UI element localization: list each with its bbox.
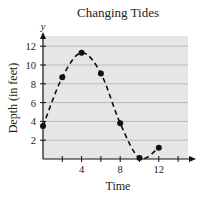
chart: Changing Tides 481224681012 Time Depth (… [0,0,202,199]
svg-text:10: 10 [26,60,37,71]
svg-text:4: 4 [31,116,37,127]
svg-text:6: 6 [31,98,36,109]
x-axis-label: Time [106,179,131,193]
svg-text:8: 8 [118,164,123,175]
data-point [98,70,104,76]
svg-text:2: 2 [31,135,36,146]
data-point [79,50,85,56]
data-point [117,120,123,126]
data-point [137,155,143,161]
svg-text:12: 12 [154,164,165,175]
data-point [40,123,46,129]
svg-text:8: 8 [31,79,36,90]
y-axis-label: Depth (in feet) [6,63,20,134]
svg-text:4: 4 [79,164,85,175]
svg-text:12: 12 [26,41,37,52]
data-point [156,145,162,151]
y-axis-letter: y [40,21,46,32]
data-point [59,74,65,80]
chart-title: Changing Tides [77,5,159,20]
